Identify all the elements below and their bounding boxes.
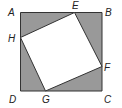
label-h: H — [8, 33, 16, 44]
label-d: D — [9, 94, 16, 105]
label-c: C — [104, 94, 112, 105]
label-a: A — [7, 7, 15, 18]
label-e: E — [72, 0, 79, 11]
label-g: G — [42, 94, 50, 105]
geometry-diagram: A B E H F D G C — [0, 0, 122, 108]
label-f: F — [104, 62, 111, 73]
label-b: B — [105, 7, 112, 18]
